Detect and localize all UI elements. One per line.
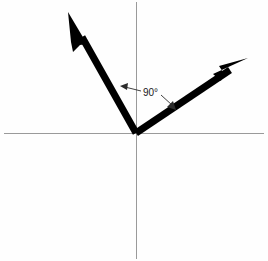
figure-container: 90°	[0, 0, 268, 261]
angle-label: 90°	[143, 87, 158, 98]
vector-diagram-svg: 90°	[0, 0, 268, 261]
